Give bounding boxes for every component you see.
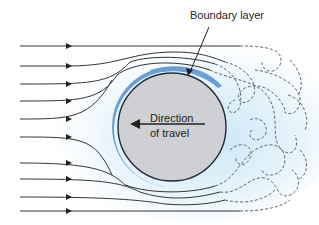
direction-label-line1: Direction [150,112,193,124]
direction-label-line2: of travel [150,127,189,139]
boundary-layer-label: Boundary layer [190,9,264,21]
